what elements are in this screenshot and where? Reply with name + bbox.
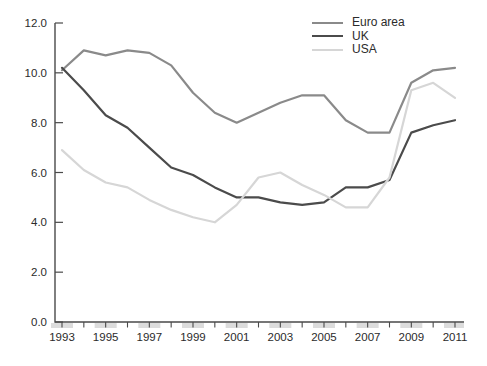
legend-label-usa: USA bbox=[352, 43, 377, 56]
line-chart-figure: 0.02.04.06.08.010.012.019931995199719992… bbox=[0, 0, 487, 366]
legend-label-euro-area: Euro area bbox=[352, 16, 405, 29]
x-tick-label: 2003 bbox=[268, 331, 294, 343]
x-tick-label: 2011 bbox=[443, 331, 468, 343]
legend-item: USA bbox=[312, 43, 405, 57]
y-tick-label: 2.0 bbox=[31, 266, 47, 278]
y-tick-label: 6.0 bbox=[31, 167, 47, 179]
legend-label-uk: UK bbox=[352, 30, 369, 43]
x-tick-label: 1995 bbox=[93, 331, 119, 343]
x-tick-label: 2009 bbox=[399, 331, 425, 343]
legend-item: UK bbox=[312, 30, 405, 44]
legend-line-sample-usa bbox=[312, 49, 343, 51]
legend: Euro area UK USA bbox=[312, 16, 405, 57]
x-tick-label: 2005 bbox=[311, 331, 337, 343]
x-tick-label: 1997 bbox=[137, 331, 163, 343]
y-tick-label: 8.0 bbox=[31, 117, 47, 129]
legend-line-sample-uk bbox=[312, 35, 343, 37]
y-tick-label: 0.0 bbox=[31, 316, 47, 328]
x-tick-label: 1993 bbox=[49, 331, 75, 343]
legend-item: Euro area bbox=[312, 16, 405, 30]
legend-line-sample-euro-area bbox=[312, 22, 343, 24]
series-line-uk bbox=[62, 68, 455, 205]
chart-plot-area: 0.02.04.06.08.010.012.019931995199719992… bbox=[0, 0, 487, 366]
axis-band bbox=[444, 323, 464, 328]
y-tick-label: 10.0 bbox=[25, 67, 47, 79]
series-line-usa bbox=[62, 83, 455, 223]
y-tick-label: 12.0 bbox=[25, 17, 47, 29]
axes bbox=[55, 23, 464, 322]
y-tick-label: 4.0 bbox=[31, 216, 47, 228]
x-tick-label: 2001 bbox=[224, 331, 250, 343]
x-tick-label: 1999 bbox=[180, 331, 206, 343]
x-tick-label: 2007 bbox=[355, 331, 381, 343]
series-line-euro-area bbox=[62, 50, 455, 132]
